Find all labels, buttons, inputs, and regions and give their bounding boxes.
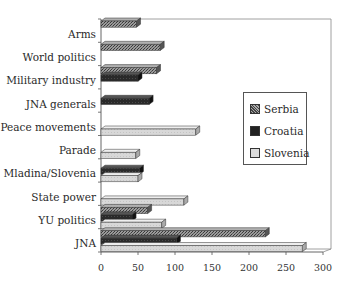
legend-label: Serbia [264, 103, 299, 115]
x-tick-label: 50 [132, 262, 144, 273]
category-label: Military industry [6, 74, 96, 86]
croatia-swatch-icon [250, 126, 260, 136]
serbia-swatch-icon [250, 104, 260, 114]
category-label: JNA generals [26, 98, 96, 110]
bar-group [101, 204, 166, 228]
legend-item-slovenia: Slovenia [250, 147, 309, 159]
bar-croatia [101, 75, 138, 81]
bar-group [101, 126, 200, 135]
category-label: Arms [68, 28, 96, 40]
legend-label: Slovenia [264, 147, 309, 159]
bar-group [101, 95, 153, 104]
category-label: Mladina/Slovenia [4, 167, 96, 179]
bar-group [101, 41, 164, 50]
bar-slovenia [101, 246, 302, 252]
bar-group [101, 165, 143, 182]
bar-serbia [101, 44, 160, 50]
bar-slovenia [101, 176, 138, 182]
category-label: Parade [59, 144, 96, 156]
bar-group [101, 18, 141, 27]
bar-slovenia [101, 129, 196, 135]
legend: Serbia Croatia Slovenia [243, 92, 307, 165]
x-tick-label: 100 [166, 262, 184, 273]
x-tick-label: 0 [98, 262, 104, 273]
bar-group [101, 228, 306, 252]
slovenia-swatch-icon [250, 148, 260, 158]
x-tick-label: 150 [203, 262, 221, 273]
bar-slovenia [101, 152, 136, 158]
legend-label: Croatia [264, 125, 303, 137]
bar-group [101, 196, 188, 205]
bar-serbia [101, 21, 137, 27]
category-label: World politics [23, 51, 96, 63]
legend-item-croatia: Croatia [250, 125, 303, 137]
category-label: State power [31, 191, 96, 203]
x-tick-label: 200 [240, 262, 258, 273]
x-tick-label: 250 [277, 262, 295, 273]
category-label: JNA [75, 237, 96, 249]
category-label: YU politics [38, 214, 96, 226]
bar-chart: ArmsWorld politicsMilitary industryJNA g… [0, 0, 351, 285]
x-tick-label: 300 [314, 262, 332, 273]
legend-item-serbia: Serbia [250, 103, 299, 115]
bar-group [101, 149, 140, 158]
bar-croatia [101, 98, 149, 104]
category-label: Peace movements [1, 121, 96, 133]
bar-group [101, 65, 161, 82]
